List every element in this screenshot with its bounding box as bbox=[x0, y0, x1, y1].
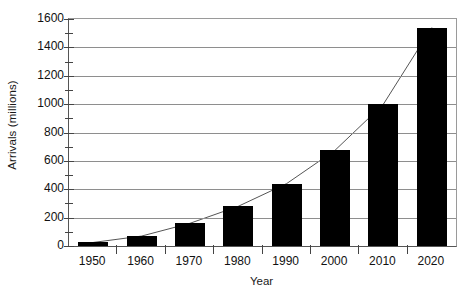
bar-chart: Arrivals (millions) 02004006008001000120… bbox=[0, 0, 472, 307]
y-axis-tick-label: 1600 bbox=[20, 12, 64, 24]
x-axis-tick bbox=[262, 245, 263, 254]
x-axis-tick bbox=[116, 245, 117, 254]
x-axis-tick bbox=[358, 245, 359, 254]
x-axis: Year 19501960197019801990200020102020 bbox=[68, 0, 455, 307]
y-axis-tick-label: 1000 bbox=[20, 97, 64, 109]
y-axis-tick-label: 600 bbox=[20, 154, 64, 166]
x-axis-tick bbox=[310, 245, 311, 254]
x-axis-title: Year bbox=[68, 275, 455, 287]
y-axis-tick-labels: 02004006008001000120014001600 bbox=[18, 0, 64, 307]
y-axis-tick-label: 1200 bbox=[20, 69, 64, 81]
x-axis-tick bbox=[407, 245, 408, 254]
y-axis-tick-label: 800 bbox=[20, 126, 64, 138]
y-axis-tick-label: 1400 bbox=[20, 40, 64, 52]
x-axis-tick bbox=[165, 245, 166, 254]
y-axis-title-text: Arrivals (millions) bbox=[6, 80, 18, 169]
y-axis-tick-label: 400 bbox=[20, 182, 64, 194]
x-axis-tick-label: 2020 bbox=[401, 254, 461, 268]
y-axis-tick-label: 0 bbox=[20, 239, 64, 251]
x-axis-tick bbox=[213, 245, 214, 254]
y-axis-tick-label: 200 bbox=[20, 211, 64, 223]
